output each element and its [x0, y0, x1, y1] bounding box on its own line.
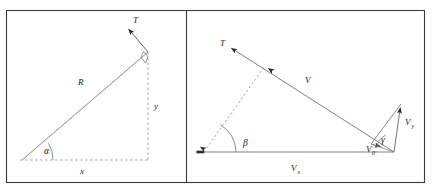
svg-text:0: 0: [372, 150, 375, 156]
vector-diagram-svg: R α x y T: [0, 0, 432, 192]
label-gamma: γ: [381, 135, 385, 145]
svg-text:x: x: [297, 169, 301, 175]
label-y: y: [153, 101, 158, 111]
label-R: R: [77, 77, 84, 87]
label-beta: β: [242, 138, 248, 148]
svg-text:y: y: [411, 123, 415, 129]
figure-outer-frame: [7, 11, 425, 183]
label-x: x: [79, 166, 84, 176]
figure-container: R α x y T: [0, 0, 432, 192]
